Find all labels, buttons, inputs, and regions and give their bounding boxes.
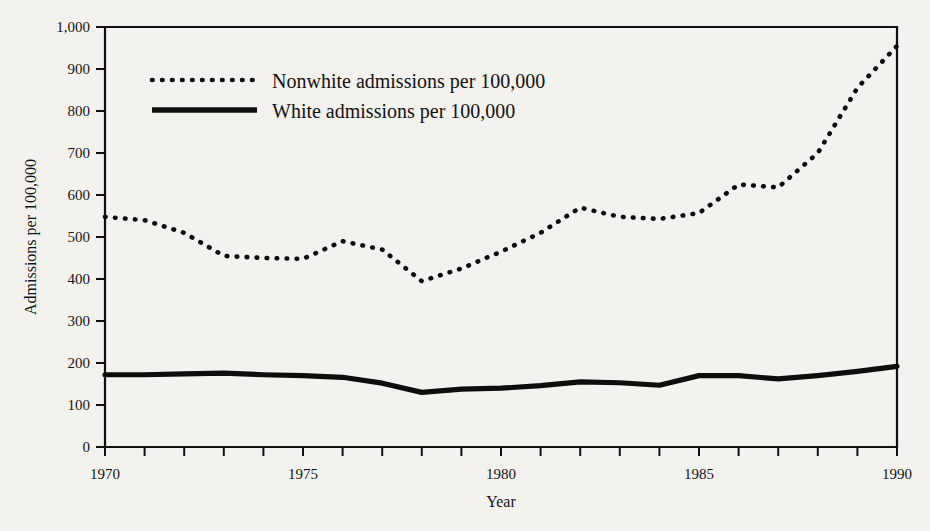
x-tick-label: 1980 (486, 466, 516, 482)
y-tick-label: 400 (68, 271, 91, 287)
y-tick-label: 200 (68, 355, 91, 371)
y-tick-label: 900 (68, 61, 91, 77)
x-tick-label: 1985 (684, 466, 714, 482)
y-tick-label: 700 (68, 145, 91, 161)
x-tick-label: 1975 (288, 466, 318, 482)
x-tick-label: 1990 (882, 466, 912, 482)
y-tick-label: 100 (68, 397, 91, 413)
y-tick-label: 1,000 (56, 19, 90, 35)
x-axis-ticks (105, 447, 897, 456)
legend-label-nonwhite: Nonwhite admissions per 100,000 (272, 70, 545, 93)
y-tick-label: 800 (68, 103, 91, 119)
chart-figure: 01002003004005006007008009001,000 197019… (0, 0, 930, 531)
x-axis-title: Year (486, 493, 516, 510)
admissions-line-chart: 01002003004005006007008009001,000 197019… (0, 0, 930, 531)
legend-label-white: White admissions per 100,000 (272, 100, 515, 123)
y-tick-label: 600 (68, 187, 91, 203)
y-tick-label: 500 (68, 229, 91, 245)
x-tick-label: 1970 (90, 466, 120, 482)
y-tick-label: 300 (68, 313, 91, 329)
y-tick-label: 0 (83, 439, 91, 455)
y-axis-title: Admissions per 100,000 (22, 159, 40, 315)
